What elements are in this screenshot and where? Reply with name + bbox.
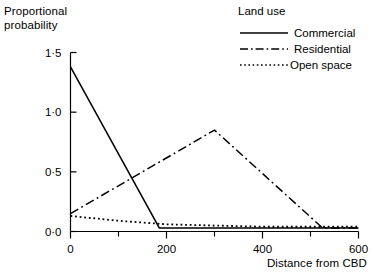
axis-lines bbox=[71, 53, 359, 232]
x-tick-label: 600 bbox=[349, 243, 368, 255]
x-tick-label: 400 bbox=[253, 243, 272, 255]
data-series-group bbox=[71, 67, 359, 228]
x-axis-tick-labels: 0200400600 bbox=[67, 243, 368, 255]
x-tick-label: 0 bbox=[67, 243, 73, 255]
y-tick-label: 1·0 bbox=[45, 106, 62, 118]
x-axis-ticks bbox=[71, 232, 359, 239]
y-axis-ticks bbox=[71, 53, 77, 232]
series-line-open-space bbox=[71, 216, 359, 227]
y-tick-label: 0·5 bbox=[45, 166, 62, 178]
y-tick-label: 1·5 bbox=[45, 47, 62, 59]
x-tick-label: 200 bbox=[157, 243, 176, 255]
x-axis-label: Distance from CBD bbox=[267, 256, 367, 270]
chart-figure: Proportional probability Land use Commer… bbox=[0, 0, 373, 272]
y-tick-label: 0·0 bbox=[45, 226, 62, 238]
series-line-commercial bbox=[71, 67, 359, 228]
y-axis-tick-labels: 0·00·51·01·5 bbox=[45, 47, 62, 238]
plot-area: 0·00·51·01·5 0200400600 bbox=[0, 0, 373, 272]
